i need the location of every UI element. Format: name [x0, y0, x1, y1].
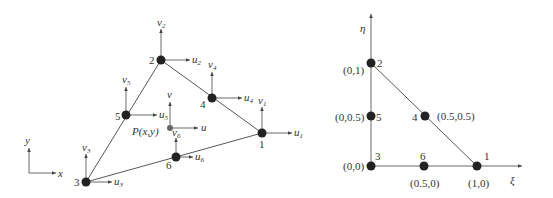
coord-node-4: (0.5,0.5): [437, 110, 475, 123]
physical-element-diagram: y x: [24, 16, 303, 189]
natural-node-1: [473, 162, 482, 171]
v4-label: v4: [208, 58, 217, 72]
node-2-number: 2: [149, 54, 155, 66]
natural-node-2-number: 2: [377, 57, 383, 69]
u6-label: u6: [195, 150, 205, 164]
natural-node-3-number: 3: [375, 150, 381, 162]
natural-node-6-number: 6: [420, 150, 426, 162]
u5-label: u5: [159, 108, 169, 122]
u-label: u: [201, 121, 207, 133]
coord-node-5: (0,0.5): [335, 111, 365, 124]
v-label: v: [167, 88, 172, 100]
node-1: [258, 129, 267, 138]
coord-node-1: (1,0): [468, 177, 489, 190]
element-edges: [86, 60, 262, 182]
natural-node-4-number: 4: [412, 111, 418, 123]
natural-node-4: [421, 112, 430, 121]
u1-label: u1: [294, 126, 303, 140]
v2-label: v2: [157, 16, 166, 30]
y-axis-label: y: [24, 134, 30, 146]
v3-label: v3: [82, 141, 91, 155]
node-2: [157, 56, 166, 65]
u2-label: u2: [192, 53, 202, 67]
node-3: [82, 178, 91, 187]
natural-node-5: [367, 112, 376, 121]
node-6-number: 6: [166, 159, 172, 171]
node-1-number: 1: [259, 138, 265, 150]
u3-label: u3: [114, 175, 124, 189]
point-p-label: P(x,y): [131, 125, 159, 138]
natural-node-6: [420, 162, 429, 171]
coord-node-3: (0,0): [343, 160, 364, 173]
natural-node-5-number: 5: [376, 111, 382, 123]
coord-node-6: (0.5,0): [410, 177, 440, 190]
x-axis-label: x: [57, 167, 63, 179]
natural-axes: [371, 14, 522, 166]
global-axes: [29, 148, 56, 173]
eta-axis-label: η: [360, 22, 365, 34]
xi-axis-label: ξ: [510, 174, 515, 187]
v5-label: v5: [122, 73, 131, 87]
element-nodes: [82, 56, 267, 187]
natural-node-3: [367, 162, 376, 171]
natural-element-diagram: η ξ 1 2 3 4 5 6 (1,0) (0,1) (0,0) (0.5,0…: [335, 14, 522, 190]
coord-node-2: (0,1): [343, 64, 364, 77]
natural-node-1-number: 1: [484, 150, 490, 162]
node-3-number: 3: [74, 176, 80, 188]
node-5: [122, 111, 131, 120]
node-5-number: 5: [115, 110, 121, 122]
node-4-number: 4: [200, 98, 206, 110]
v1-label: v1: [258, 94, 266, 108]
u4-label: u4: [244, 91, 254, 105]
natural-node-2: [367, 59, 376, 68]
node-6: [172, 153, 181, 162]
node-4: [208, 94, 217, 103]
